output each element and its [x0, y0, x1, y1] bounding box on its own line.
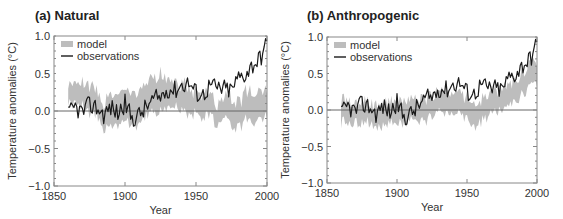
- x-tick-label: 1900: [113, 190, 137, 202]
- legend: modelobservations: [61, 38, 140, 62]
- legend-observations-label: observations: [350, 51, 413, 63]
- chart-natural: 1.00.50.0−0.5−1.01850190019502000YearTem…: [0, 0, 280, 219]
- y-tick-label: 1.0: [35, 30, 50, 42]
- x-tick-label: 1950: [184, 190, 208, 202]
- y-tick-label: 1.0: [308, 31, 323, 43]
- y-tick-label: 0.0: [308, 104, 323, 116]
- legend-model-swatch: [334, 42, 346, 48]
- x-tick-label: 2000: [525, 187, 549, 199]
- y-tick-label: 0.0: [35, 105, 50, 117]
- y-tick-label: −0.5: [28, 143, 50, 155]
- legend: modelobservations: [334, 39, 413, 63]
- chart-anthropogenic: 1.00.50.0−0.5−1.01850190019502000YearTem…: [280, 0, 563, 219]
- y-axis-label: Temperature anomalies (°C): [6, 42, 18, 180]
- y-axis-label: Temperature anomalies (°C): [280, 41, 291, 179]
- x-axis-label: Year: [149, 204, 172, 216]
- x-axis-label: Year: [421, 201, 444, 213]
- x-tick-label: 1900: [385, 187, 409, 199]
- panel-natural: (a) Natural 1.00.50.0−0.5−1.018501900195…: [0, 0, 280, 219]
- x-tick-label: 2000: [255, 190, 279, 202]
- legend-observations-label: observations: [77, 50, 140, 62]
- model-band: [341, 57, 537, 132]
- legend-model-label: model: [350, 39, 380, 51]
- x-tick-label: 1850: [315, 187, 339, 199]
- y-tick-label: 0.5: [308, 68, 323, 80]
- y-tick-label: 0.5: [35, 68, 50, 80]
- y-tick-label: −0.5: [301, 141, 323, 153]
- legend-model-label: model: [77, 38, 107, 50]
- legend-model-swatch: [61, 41, 73, 47]
- x-tick-label: 1850: [42, 190, 66, 202]
- panel-anthropogenic: (b) Anthropogenic 1.00.50.0−0.5−1.018501…: [280, 0, 563, 219]
- x-tick-label: 1950: [455, 187, 479, 199]
